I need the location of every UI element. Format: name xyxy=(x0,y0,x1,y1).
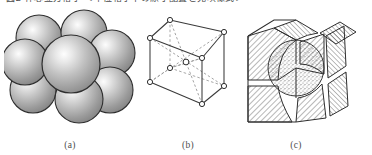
edge-top-left xyxy=(150,20,170,38)
octant-back-right-edge xyxy=(326,26,346,78)
edge-top-back xyxy=(170,20,224,32)
edge-bottom-right xyxy=(202,86,224,104)
panel-a-caption: (a) xyxy=(40,140,100,150)
lattice-point-corner-back-top-left xyxy=(167,17,172,22)
body-diagonal-2 xyxy=(150,32,224,82)
lattice-point-corner-back-top-right xyxy=(221,29,226,34)
octant-back-right-lower xyxy=(328,72,348,116)
edge-top-front xyxy=(150,38,202,58)
lattice-point-corner-back-bottom-left xyxy=(167,65,172,70)
panel-b-caption: (b) xyxy=(158,140,218,150)
bcc-structure-figure: 図2 体心立方格子 ＜単位格子中の原子配置と充填様式＞ xyxy=(0,0,372,155)
lattice-point-corner-back-bottom-right xyxy=(221,83,226,88)
edge-bottom-front xyxy=(150,82,202,104)
lattice-point-corner-front-top-right xyxy=(199,55,204,60)
hidden-edge-bottom-left-depth xyxy=(150,68,170,82)
panel-a-hard-sphere-model: (a) xyxy=(4,6,136,128)
hard-sphere-model-drawing xyxy=(4,6,136,128)
clipped-header-text-line: 図2 体心立方格子 ＜単位格子中の原子配置と充填様式＞ xyxy=(6,0,244,4)
aggregate-cut-away-drawing xyxy=(234,6,362,128)
unit-cell-drawing xyxy=(140,6,236,128)
lattice-point-corner-front-bottom-right xyxy=(199,101,204,106)
panel-c-cut-away-aggregate: (c) xyxy=(234,6,362,128)
panel-c-caption: (c) xyxy=(266,140,326,150)
corner-sphere-front-top-left xyxy=(4,39,48,85)
lattice-point-corner-front-bottom-left xyxy=(147,79,152,84)
panel-b-reduced-sphere-unit-cell: (b) xyxy=(140,6,236,128)
lattice-point-corner-front-top-left xyxy=(147,35,152,40)
centre-sphere xyxy=(42,35,100,93)
hidden-edge-back-bottom xyxy=(170,68,224,86)
lattice-point-body-centre xyxy=(183,59,189,65)
